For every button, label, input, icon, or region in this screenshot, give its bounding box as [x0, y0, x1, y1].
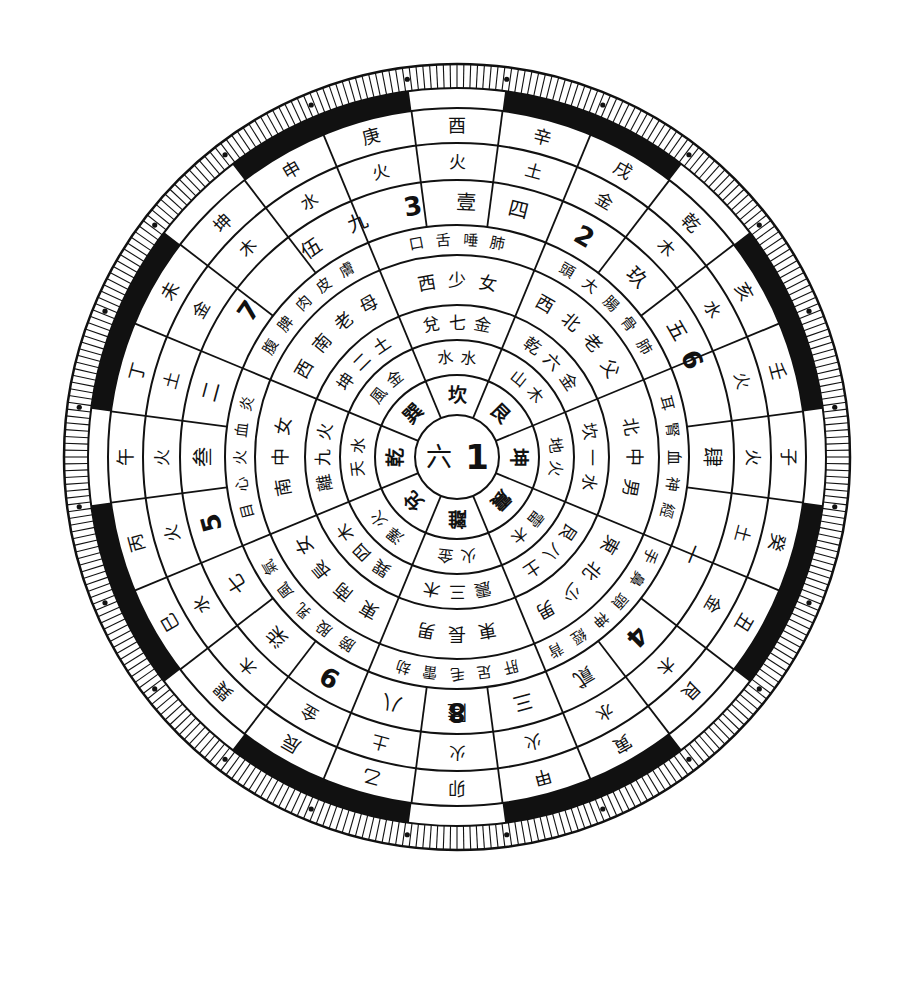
tick-dot [806, 309, 811, 314]
ring3-label: 火 [367, 507, 392, 531]
ring3-label: 地 [546, 437, 567, 455]
tick-dot [77, 504, 82, 509]
number-label: 陸 [447, 699, 467, 723]
ring6-label: 氣 [259, 556, 282, 578]
number-label: 4 [620, 620, 654, 654]
ring4-label: 金 [472, 314, 493, 337]
number-label: 壹 [455, 190, 476, 215]
element-label: 金 [297, 700, 322, 726]
ring5-label: 北 [557, 308, 584, 336]
ring5-label: 南 [308, 330, 336, 357]
ring4-label: 艮 [555, 520, 581, 545]
trigram-label: 離 [448, 508, 467, 530]
tick-dot [806, 600, 811, 605]
number-label: 3 [401, 190, 424, 223]
tick-dot [222, 152, 227, 157]
ring6-label: 神 [662, 476, 682, 493]
ring4-label: 震 [472, 578, 493, 601]
tick-dot [77, 405, 82, 410]
ring6-label: 口 [407, 234, 425, 254]
ring5-label: 男 [532, 597, 558, 624]
ring6-label: 血 [232, 421, 252, 438]
ring6-label: 炎 [236, 394, 257, 413]
ring6-label: 雷 [421, 662, 438, 682]
ring3-label: 火 [546, 459, 567, 477]
ring6-label: 頭 [556, 259, 578, 282]
ring3-label: 木 [522, 383, 547, 407]
number-label: 三 [510, 689, 536, 717]
ring6-label: 手 [639, 545, 662, 567]
branch-label: 亥 [730, 278, 757, 304]
element-label: 水 [592, 700, 617, 726]
ring6-label: 目 [236, 501, 257, 520]
ring6-label: 背 [545, 639, 567, 662]
branch-label: 午 [115, 448, 136, 466]
branch-label: 丁 [124, 360, 149, 383]
ring6-label: 風 [274, 579, 297, 602]
ring5-label: 中 [270, 448, 291, 466]
trigram-label: 坤 [508, 448, 530, 467]
element-label: 金 [188, 297, 214, 322]
trigram-label: 震 [486, 486, 516, 516]
ring4-label: 巽 [369, 555, 394, 581]
trigram-label: 坎 [448, 384, 467, 406]
ring6-label: 肝 [501, 657, 520, 678]
tick-dot [504, 832, 509, 837]
ring6-label: 肺 [632, 336, 655, 358]
ring4-label: 八 [539, 539, 565, 565]
ring6-label: 經 [568, 625, 591, 648]
branch-label: 坤 [209, 209, 237, 237]
ring6-label: 腹 [259, 336, 282, 358]
ring6-label: 唾 [463, 231, 479, 250]
element-label: 金 [592, 188, 617, 214]
number-label: 五 [662, 315, 693, 344]
ring5-label: 南 [271, 477, 295, 498]
element-label: 火 [449, 743, 466, 763]
element-label: 火 [731, 370, 755, 392]
branch-label: 卯 [448, 778, 466, 799]
ring6-label: 足 [476, 662, 493, 682]
ring5-label: 西 [532, 290, 558, 317]
branch-label: 申 [278, 156, 304, 183]
tick-dot [832, 504, 837, 509]
branch-label: 辰 [278, 730, 304, 757]
ring5-label: 東 [477, 619, 498, 643]
ring5-label: 女 [290, 532, 317, 558]
trigram-label: 兌 [399, 486, 428, 515]
ring6-label: 腎 [662, 421, 682, 438]
trigram-label: 乾 [384, 448, 406, 467]
branch-label: 辛 [531, 124, 554, 149]
element-label: 土 [731, 523, 755, 545]
tick-dot [152, 686, 157, 691]
tick-dot [102, 309, 107, 314]
number-label: 二 [197, 378, 225, 404]
hub-one: 1 [465, 437, 489, 477]
ring6-label: 頭 [608, 589, 631, 612]
ring4-label: 乾 [520, 332, 545, 358]
element-label: 火 [523, 731, 545, 755]
number-label: 七 [221, 570, 252, 599]
ring4-label: 二 [349, 349, 375, 375]
number-label: 5 [194, 510, 228, 535]
ring5-label: 男 [619, 477, 643, 498]
ring4-label: 四 [349, 539, 375, 565]
element-label: 水 [297, 188, 322, 214]
number-label: 八 [378, 689, 404, 717]
ring6-label: 大 [579, 274, 602, 297]
ring3-label: 水 [459, 348, 477, 369]
branch-label: 未 [156, 278, 183, 304]
number-label: 9 [314, 660, 345, 695]
ring5-label: 南 [330, 579, 357, 607]
ring6-label: 神 [589, 608, 612, 631]
hub-six: 六 [426, 442, 452, 472]
ring3-label: 水 [348, 437, 369, 455]
tick-dot [309, 806, 314, 811]
ring6-label: 肺 [489, 234, 507, 254]
ring5-label: 女 [477, 271, 498, 295]
ring6-label: 舌 [435, 231, 451, 250]
ring4-label: 坎 [578, 421, 601, 442]
tick-dot [757, 222, 762, 227]
ring3-label: 山 [507, 367, 531, 392]
ring3-label: 天 [348, 459, 369, 477]
branch-label: 丑 [730, 610, 757, 636]
